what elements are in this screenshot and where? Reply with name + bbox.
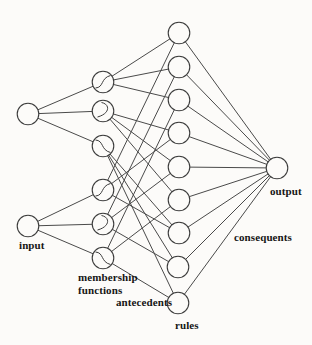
input-1-node bbox=[17, 103, 39, 125]
edge-input-2-to-mf-4 bbox=[28, 190, 103, 226]
label-consequents: consequents bbox=[234, 231, 292, 244]
rule-6-node bbox=[168, 189, 190, 211]
edge-rule-6-to-output-1 bbox=[179, 168, 277, 200]
rule-7-node bbox=[168, 222, 190, 244]
edge-mf-4-to-rule-4 bbox=[103, 133, 179, 190]
input-2-node bbox=[17, 215, 39, 237]
edge-rule-4-to-output-1 bbox=[179, 133, 277, 168]
rule-2-node bbox=[168, 56, 190, 78]
mf-5-node bbox=[92, 213, 114, 235]
edge-mf-4-to-rule-1 bbox=[103, 33, 179, 190]
edge-rule-1-to-output-1 bbox=[179, 33, 277, 168]
network-graph bbox=[0, 0, 312, 345]
rule-4-node bbox=[168, 122, 190, 144]
edge-mf-2-to-rule-4 bbox=[103, 111, 179, 133]
label-membership-functions: membership functions bbox=[78, 271, 138, 297]
rule-3-node bbox=[168, 89, 190, 111]
edge-input-1-to-mf-1 bbox=[28, 82, 103, 114]
label-antecedents: antecedents bbox=[116, 296, 172, 309]
label-membership-line1: membership bbox=[78, 271, 138, 284]
output-1-node bbox=[266, 157, 288, 179]
edge-rule-8-to-output-1 bbox=[178, 168, 277, 267]
mf-2-node bbox=[92, 100, 114, 122]
rule-8-node bbox=[167, 256, 189, 278]
edge-mf-5-to-rule-8 bbox=[103, 224, 178, 267]
edge-rule-2-to-output-1 bbox=[179, 67, 277, 168]
neuro-fuzzy-network-diagram: input membership functions antecedents r… bbox=[0, 0, 312, 345]
label-output: output bbox=[270, 185, 302, 198]
edge-rule-5-to-output-1 bbox=[179, 167, 277, 168]
edge-rule-3-to-output-1 bbox=[179, 100, 277, 168]
edge-rule-7-to-output-1 bbox=[179, 168, 277, 233]
rule-5-node bbox=[168, 156, 190, 178]
edge-input-1-to-mf-3 bbox=[28, 114, 103, 146]
rule-1-node bbox=[168, 22, 190, 44]
edge-mf-5-to-rule-5 bbox=[103, 167, 179, 224]
label-input: input bbox=[19, 239, 45, 252]
label-rules: rules bbox=[175, 319, 199, 332]
